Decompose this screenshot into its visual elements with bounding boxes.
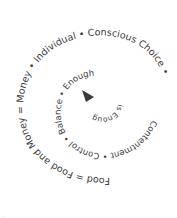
footer-marks: .. [2,214,7,218]
spiral-diagram: Food = Food and Money = Money • Individu… [0,0,177,218]
center-arrow-icon [82,90,94,102]
spiral-middle-text: Contentment • Control • Balance • Enough [53,68,160,162]
spiral-outer-text: Food = Food and Money = Money • Individu… [14,26,172,187]
